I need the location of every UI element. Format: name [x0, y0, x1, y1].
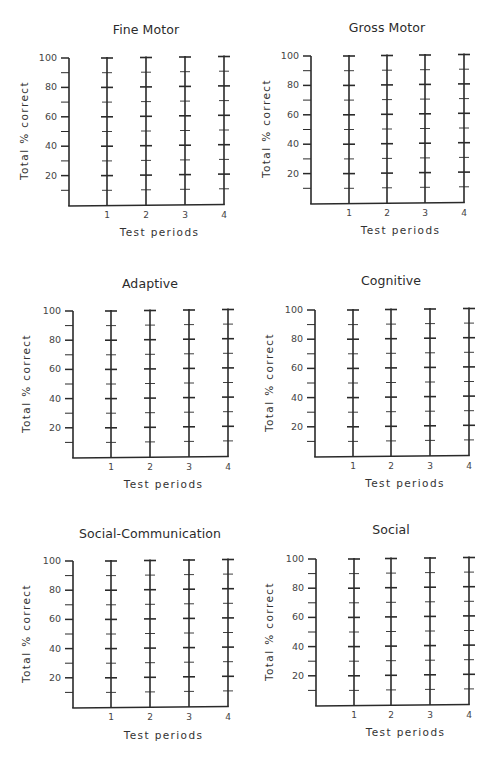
y-tick-label: 60 [37, 364, 61, 374]
y-tick-label: 80 [37, 585, 61, 595]
x-tick-label: 4 [222, 462, 234, 472]
y-tick-label: 40 [275, 139, 299, 149]
y-tick-label: 40 [280, 642, 304, 652]
y-tick-label: 20 [280, 671, 304, 681]
x-tick-label: 3 [419, 208, 431, 218]
x-tick-label: 3 [183, 462, 195, 472]
x-axis [310, 203, 465, 205]
chart-title: Social-Communication [30, 526, 270, 541]
x-axis-label: Test periods [104, 729, 224, 741]
y-tick-label: 100 [280, 554, 304, 564]
x-tick-label: 3 [183, 712, 195, 722]
y-tick-label: 60 [280, 612, 304, 622]
x-tick-label: 1 [348, 710, 360, 720]
x-tick-label: 2 [381, 208, 393, 218]
x-tick-label: 2 [385, 710, 397, 720]
x-tick-label: 2 [144, 462, 156, 472]
y-tick-label: 40 [279, 393, 303, 403]
x-tick-label: 1 [105, 712, 117, 722]
y-tick-label: 40 [33, 141, 57, 151]
y-tick-label: 60 [33, 112, 57, 122]
chart-plot-area [0, 0, 491, 757]
x-tick-label: 1 [347, 461, 359, 471]
chart-title: Gross Motor [267, 20, 491, 35]
chart-social: Social204060801001234Total % correctTest… [0, 0, 491, 757]
y-tick-label: 80 [37, 335, 61, 345]
y-axis-label: Total % correct [260, 79, 272, 178]
y-tick-label: 60 [275, 110, 299, 120]
chart-cognitive: Cognitive204060801001234Total % correctT… [0, 0, 491, 757]
y-axis-label: Total % correct [263, 333, 275, 432]
chart-plot-area [0, 0, 491, 757]
x-axis [315, 705, 470, 707]
x-tick-label: 1 [101, 210, 113, 220]
y-tick-label: 40 [37, 394, 61, 404]
x-axis-label: Test periods [346, 726, 466, 738]
y-tick-label: 20 [279, 422, 303, 432]
x-tick-label: 4 [458, 208, 470, 218]
y-tick-label: 80 [275, 80, 299, 90]
y-axis-label: Total % correct [263, 582, 275, 681]
x-axis-label: Test periods [100, 226, 220, 238]
x-axis [72, 457, 229, 459]
x-tick-label: 1 [343, 208, 355, 218]
x-tick-label: 4 [463, 461, 475, 471]
chart-plot-area [0, 0, 491, 757]
chart-title: Fine Motor [26, 22, 266, 37]
x-tick-label: 2 [144, 712, 156, 722]
x-tick-label: 2 [385, 461, 397, 471]
y-axis-label: Total % correct [20, 584, 32, 683]
chart-title: Adaptive [30, 276, 270, 291]
x-axis [72, 707, 229, 709]
chart-fine-motor: Fine Motor204060801001234Total % correct… [0, 0, 491, 757]
chart-social-communication: Social-Communication204060801001234Total… [0, 0, 491, 757]
y-tick-label: 100 [33, 53, 57, 63]
x-axis-label: Test periods [104, 478, 224, 490]
x-tick-label: 3 [179, 210, 191, 220]
x-tick-label: 4 [463, 710, 475, 720]
chart-adaptive: Adaptive204060801001234Total % correctTe… [0, 0, 491, 757]
x-axis [68, 205, 225, 207]
y-tick-label: 20 [37, 423, 61, 433]
y-tick-label: 20 [275, 169, 299, 179]
y-tick-label: 40 [37, 644, 61, 654]
chart-plot-area [0, 0, 491, 757]
y-tick-label: 80 [33, 82, 57, 92]
x-tick-label: 4 [218, 210, 230, 220]
chart-title: Cognitive [271, 273, 491, 288]
x-axis-label: Test periods [345, 477, 465, 489]
y-tick-label: 80 [279, 334, 303, 344]
chart-plot-area [0, 0, 491, 757]
x-tick-label: 3 [424, 461, 436, 471]
x-tick-label: 2 [140, 210, 152, 220]
y-tick-label: 60 [37, 614, 61, 624]
x-tick-label: 1 [105, 462, 117, 472]
x-axis [314, 456, 470, 458]
x-axis-label: Test periods [341, 224, 461, 236]
chart-plot-area [0, 0, 491, 757]
y-tick-label: 100 [37, 306, 61, 316]
y-tick-label: 100 [275, 51, 299, 61]
x-tick-label: 4 [222, 712, 234, 722]
y-axis-label: Total % correct [18, 81, 30, 180]
y-tick-label: 100 [279, 305, 303, 315]
y-tick-label: 100 [37, 556, 61, 566]
chart-gross-motor: Gross Motor204060801001234Total % correc… [0, 0, 491, 757]
x-tick-label: 3 [424, 710, 436, 720]
y-tick-label: 20 [37, 673, 61, 683]
chart-title: Social [271, 522, 491, 537]
y-tick-label: 80 [280, 583, 304, 593]
y-tick-label: 20 [33, 171, 57, 181]
y-axis-label: Total % correct [20, 334, 32, 433]
y-tick-label: 60 [279, 363, 303, 373]
